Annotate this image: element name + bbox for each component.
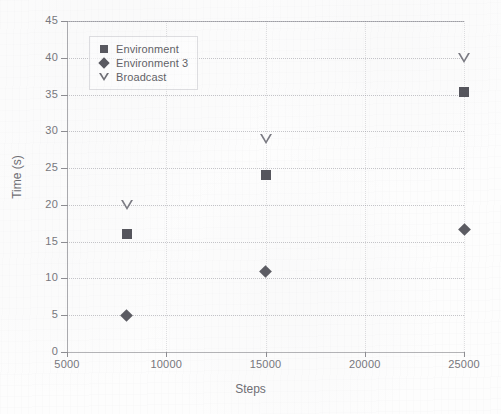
x-axis-title: Steps xyxy=(0,382,501,396)
data-point xyxy=(258,167,274,183)
triangle-down-marker-icon xyxy=(121,200,133,210)
y-tick-label: 25 xyxy=(24,161,58,173)
tick-y xyxy=(61,131,68,132)
square-marker-icon xyxy=(100,45,108,53)
legend-item-label: Broadcast xyxy=(116,71,166,83)
tick-x xyxy=(166,352,167,357)
square-marker-icon xyxy=(122,229,132,239)
diamond-marker-icon xyxy=(120,310,133,323)
tick-x xyxy=(266,352,267,357)
x-tick-label: 5000 xyxy=(32,358,102,370)
tick-x xyxy=(464,352,465,357)
tick-x xyxy=(67,352,68,357)
diamond-marker-icon xyxy=(259,265,272,278)
triangle-down-marker-icon xyxy=(260,134,272,144)
square-marker-icon xyxy=(459,87,469,97)
tick-y xyxy=(61,278,68,279)
diamond-marker-icon xyxy=(458,224,471,237)
y-axis-title: Time (s) xyxy=(10,132,24,222)
tick-y xyxy=(61,58,68,59)
legend-item[interactable]: Broadcast xyxy=(97,70,188,84)
tick-y xyxy=(61,205,68,206)
square-marker-icon xyxy=(261,170,271,180)
gridline-x xyxy=(365,21,367,352)
y-tick-label: 30 xyxy=(24,124,58,136)
y-tick-label: 10 xyxy=(24,271,58,283)
chart-figure: 051015202530354045 500010000150002000025… xyxy=(0,0,501,414)
data-point xyxy=(119,197,135,213)
tick-y xyxy=(61,242,68,243)
legend-item-label: Environment xyxy=(116,43,179,55)
y-tick-label: 0 xyxy=(24,345,58,357)
tick-y xyxy=(61,315,68,316)
tick-x xyxy=(365,352,366,357)
legend-marker xyxy=(97,56,111,70)
data-point xyxy=(456,84,472,100)
data-point xyxy=(258,263,274,279)
data-point xyxy=(456,222,472,238)
y-tick-label: 5 xyxy=(24,308,58,320)
data-point xyxy=(456,50,472,66)
legend-item[interactable]: Environment 3 xyxy=(97,56,188,70)
tick-y xyxy=(61,95,68,96)
y-tick-label: 15 xyxy=(24,235,58,247)
y-tick-label: 45 xyxy=(24,14,58,26)
x-tick-label: 20000 xyxy=(330,358,400,370)
tick-y xyxy=(61,168,68,169)
data-point xyxy=(258,131,274,147)
legend-marker xyxy=(97,70,111,84)
tick-y xyxy=(61,21,68,22)
triangle-down-marker-icon xyxy=(458,53,470,63)
chart-legend[interactable]: EnvironmentEnvironment 3Broadcast xyxy=(89,36,198,90)
y-tick-label: 35 xyxy=(24,88,58,100)
legend-item-label: Environment 3 xyxy=(116,57,188,69)
x-tick-label: 25000 xyxy=(429,358,499,370)
y-axis-line xyxy=(67,21,68,352)
legend-marker xyxy=(97,42,111,56)
y-tick-label: 40 xyxy=(24,51,58,63)
diamond-marker-icon xyxy=(98,57,109,68)
data-point xyxy=(119,308,135,324)
y-tick-label: 20 xyxy=(24,198,58,210)
legend-item[interactable]: Environment xyxy=(97,42,188,56)
gridline-x xyxy=(464,21,466,352)
data-point xyxy=(119,226,135,242)
x-tick-label: 10000 xyxy=(131,358,201,370)
x-tick-label: 15000 xyxy=(231,358,301,370)
gridline-x xyxy=(266,21,268,352)
triangle-down-marker-icon xyxy=(99,73,109,81)
